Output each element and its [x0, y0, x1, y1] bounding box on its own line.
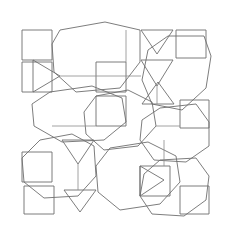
tiling-figure — [0, 0, 229, 237]
tiling-diagram — [0, 0, 229, 237]
